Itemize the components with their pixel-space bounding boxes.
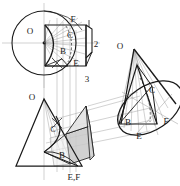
geometry-figure: O F C B E 2 3 O C B E,F O C B E F (0, 0, 180, 186)
label-top-O: O (27, 26, 34, 36)
geometry-canvas: O F C B E 2 3 O C B E,F O C B E F (0, 0, 180, 186)
pictorial-view-group (108, 49, 180, 146)
label-top-F: F (70, 14, 75, 24)
label-pic-E: E (136, 131, 142, 141)
label-top-E: E (73, 58, 79, 68)
top-view-step-edge-2 (86, 52, 92, 66)
radial-3 (44, 38, 86, 43)
label-dim-3: 3 (85, 74, 90, 84)
label-top-B: B (60, 46, 66, 56)
label-front-B: B (59, 150, 65, 160)
label-front-C: C (50, 125, 55, 134)
pictorial-base-ellipse (108, 70, 180, 147)
transfer-2 (52, 108, 150, 131)
label-pic-B: B (125, 117, 131, 127)
label-front-O: O (29, 92, 36, 102)
label-pic-C: C (149, 85, 155, 95)
gen-8 (134, 49, 168, 108)
label-pic-O: O (117, 41, 124, 51)
label-pic-F: F (163, 116, 168, 126)
label-front-EF: E,F (68, 172, 81, 182)
label-dim-2: 2 (94, 39, 99, 49)
label-top-C: C (67, 30, 73, 40)
transfer-5 (88, 92, 138, 106)
top-view-section-curve (45, 25, 54, 66)
